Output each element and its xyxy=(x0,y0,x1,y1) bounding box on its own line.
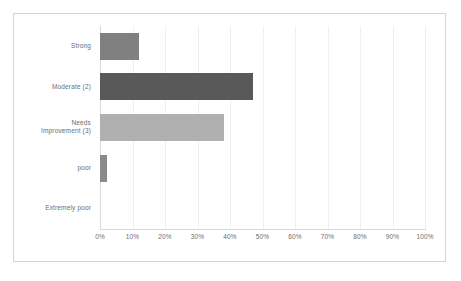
bar[interactable] xyxy=(100,33,139,60)
bar-row: Extremely poor xyxy=(100,188,425,229)
chart-frame: StrongModerate (2)Needs Improvement (3)p… xyxy=(13,13,446,262)
bar-row: Moderate (2) xyxy=(100,67,425,108)
bar[interactable] xyxy=(100,73,253,100)
x-axis-tick-labels: 0%10%20%30%40%50%60%70%80%90%100% xyxy=(100,233,425,247)
x-tick-label: 50% xyxy=(256,233,269,240)
bar[interactable] xyxy=(100,155,107,182)
x-tick-label: 80% xyxy=(353,233,366,240)
category-label: Moderate (2) xyxy=(5,83,91,92)
x-tick-label: 40% xyxy=(223,233,236,240)
bar[interactable] xyxy=(100,114,224,141)
x-tick-label: 10% xyxy=(126,233,139,240)
x-tick-label: 0% xyxy=(95,233,105,240)
bar-row: Strong xyxy=(100,26,425,67)
bar-row: poor xyxy=(100,148,425,189)
category-label: Strong xyxy=(5,42,91,51)
category-label: Extremely poor xyxy=(5,204,91,213)
x-tick-label: 70% xyxy=(321,233,334,240)
category-label: poor xyxy=(5,164,91,173)
x-tick-label: 90% xyxy=(386,233,399,240)
category-label: Needs Improvement (3) xyxy=(5,119,91,137)
x-tick-label: 100% xyxy=(416,233,433,240)
x-axis-line xyxy=(100,229,426,230)
plot-area: StrongModerate (2)Needs Improvement (3)p… xyxy=(100,26,425,229)
x-tick-label: 30% xyxy=(191,233,204,240)
x-tick-label: 60% xyxy=(288,233,301,240)
bar-row: Needs Improvement (3) xyxy=(100,107,425,148)
gridline-100pct xyxy=(425,26,426,229)
x-tick-label: 20% xyxy=(158,233,171,240)
